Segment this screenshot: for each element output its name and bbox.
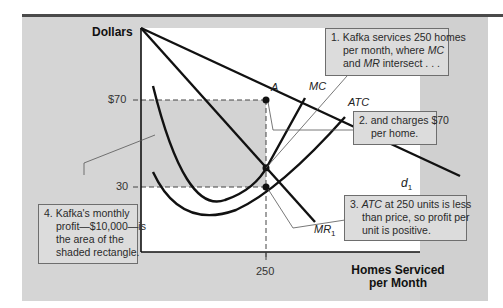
callout-1-mr-term: MR (363, 57, 379, 69)
label-d1: d1 (401, 176, 412, 192)
callout-4-line3: the area of the (44, 233, 132, 246)
callout-1-line3c: intersect . . . (380, 57, 440, 69)
label-point-a: A (271, 81, 278, 93)
label-mr1-main: MR (314, 223, 331, 235)
callout-1-number: 1. (331, 31, 340, 43)
callout-1-line2: per month, where (343, 44, 428, 56)
callout-4-line1: Kafka's monthly (56, 207, 130, 219)
y-tick-label-70: $70 (108, 93, 126, 105)
label-mr1-sub: 1 (331, 229, 335, 238)
x-tick-label-250: 250 (256, 265, 274, 277)
callout-3-atc-term: ATC (362, 198, 382, 210)
y-axis-title: Dollars (92, 26, 133, 39)
callout-2-line1: and charges $70 (371, 114, 449, 126)
callout-3-line1: at 250 units is less (382, 198, 471, 210)
label-mr1: MR1 (314, 223, 336, 238)
label-d1-main: d (401, 176, 408, 190)
label-d1-sub: 1 (408, 183, 412, 192)
callout-1-line1: Kafka services 250 homes (343, 31, 466, 43)
economics-figure: Dollars Homes Serviced per Month $70 30 … (0, 0, 503, 308)
callout-2-line2: per home. (359, 127, 431, 140)
callout-3: 3. ATC at 250 units is less than price, … (344, 195, 467, 241)
callout-3-line3: unit is positive. (350, 224, 461, 237)
callout-2: 2. and charges $70 per home. (353, 111, 437, 145)
callout-1-line3a: and (343, 57, 363, 69)
x-axis-title-line2: per Month (333, 277, 463, 290)
callout-3-number: 3. (350, 198, 359, 210)
label-mc: MC (309, 80, 326, 92)
callout-3-line2: than price, so profit per (350, 211, 461, 224)
label-atc: ATC (348, 96, 369, 108)
callout-4: 4. Kafka's monthly profit—$10,000—is the… (38, 204, 138, 264)
callout-1-mc-term: MC (428, 44, 444, 56)
top-rule (22, 14, 503, 17)
callout-2-number: 2. (359, 114, 368, 126)
x-axis-title: Homes Serviced per Month (333, 264, 463, 290)
callout-4-line4: shaded rectangle. (44, 246, 132, 259)
callout-4-line2: profit—$10,000—is (44, 220, 132, 233)
callout-1: 1. Kafka services 250 homes per month, w… (325, 28, 449, 76)
callout-4-number: 4. (44, 207, 53, 219)
y-tick-label-30: 30 (116, 180, 128, 192)
